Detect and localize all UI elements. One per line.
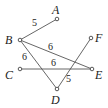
- node-b: [18, 38, 22, 42]
- node-d: [55, 87, 59, 91]
- weight-b-e: 6: [48, 41, 53, 52]
- edge-a-b: [20, 19, 57, 40]
- label-c: C: [5, 68, 14, 82]
- graph-diagram: 5 6 6 6 5 A B C D E F: [0, 0, 108, 108]
- node-a: [55, 17, 59, 21]
- node-f: [89, 36, 93, 40]
- weight-b-d: 6: [22, 51, 27, 62]
- node-c: [18, 67, 22, 71]
- label-d: D: [50, 93, 60, 107]
- label-a: A: [51, 3, 60, 17]
- label-f: F: [94, 31, 103, 45]
- weight-c-e: 6: [51, 57, 56, 68]
- node-e: [90, 67, 94, 71]
- weight-a-b: 5: [32, 17, 37, 28]
- label-e: E: [94, 68, 103, 82]
- label-b: B: [5, 33, 13, 47]
- weight-f-d: 5: [66, 73, 71, 84]
- edge-f-d: [57, 38, 91, 89]
